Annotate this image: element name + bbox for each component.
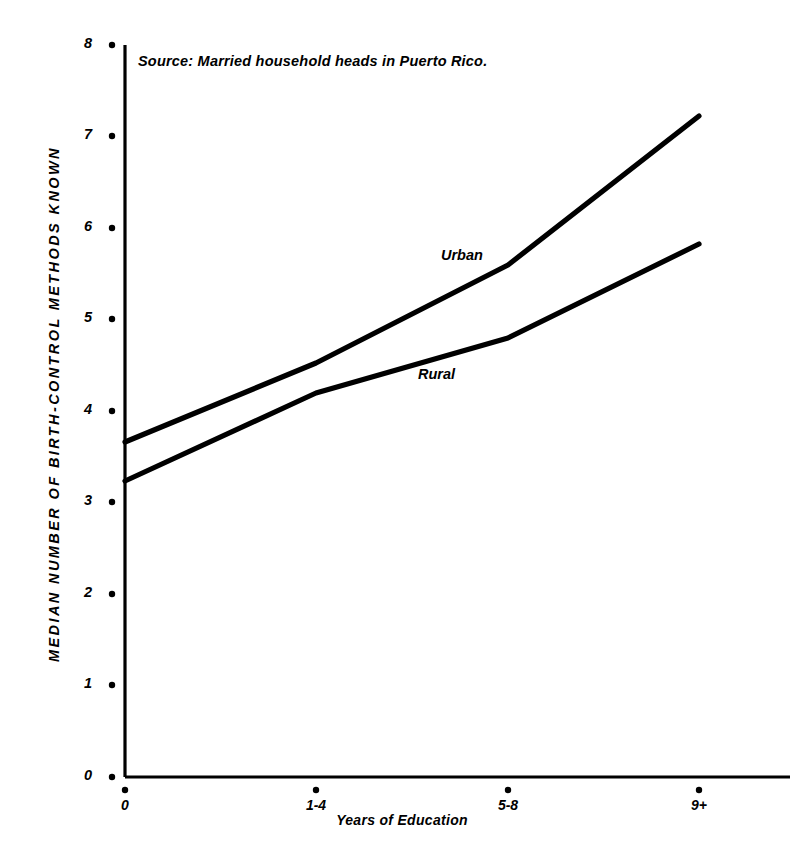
- y-tick-label-3: 3: [62, 492, 92, 508]
- x-axis-title: Years of Education: [0, 812, 804, 828]
- series-label-rural: Rural: [418, 366, 455, 382]
- y-tick-label-6: 6: [62, 218, 92, 234]
- y-tick-label-8: 8: [62, 35, 92, 51]
- x-tick-label-1-4: 1-4: [281, 797, 351, 813]
- x-tick-label-9-plus: 9+: [664, 797, 734, 813]
- y-axis-tick-dots: [109, 42, 115, 780]
- series-line-rural: [125, 244, 699, 481]
- y-axis-title: MEDIAN NUMBER OF BIRTH-CONTROL METHODS K…: [46, 94, 62, 714]
- y-tick-label-0: 0: [62, 767, 92, 783]
- series-label-urban: Urban: [441, 247, 483, 263]
- source-note: Source: Married household heads in Puert…: [138, 53, 487, 69]
- y-tick-label-4: 4: [62, 401, 92, 417]
- series-line-urban: [125, 116, 699, 442]
- chart-plot-area: [0, 0, 804, 846]
- y-tick-label-5: 5: [62, 309, 92, 325]
- y-tick-label-2: 2: [62, 584, 92, 600]
- x-axis-tick-dots: [122, 787, 702, 793]
- y-tick-label-7: 7: [62, 126, 92, 142]
- chart-figure: Source: Married household heads in Puert…: [0, 0, 804, 846]
- x-tick-label-0: 0: [90, 797, 160, 813]
- x-tick-label-5-8: 5-8: [473, 797, 543, 813]
- y-tick-label-1: 1: [62, 675, 92, 691]
